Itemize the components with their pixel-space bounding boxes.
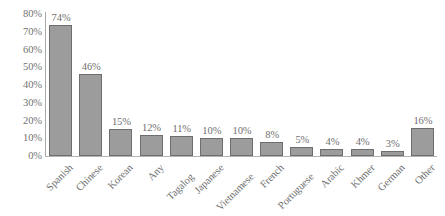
- bar-group: 3%: [378, 10, 408, 156]
- bar[interactable]: [109, 129, 132, 156]
- bar[interactable]: [49, 25, 72, 156]
- y-tick-label: 20%: [2, 116, 42, 127]
- y-tick-label: 40%: [2, 80, 42, 91]
- bar[interactable]: [351, 149, 374, 156]
- y-axis-tick-labels: 0%10%20%30%40%50%60%70%80%: [0, 0, 42, 216]
- bar[interactable]: [170, 136, 193, 156]
- bar[interactable]: [200, 138, 223, 156]
- bar[interactable]: [320, 149, 343, 156]
- y-tick-label: 80%: [2, 9, 42, 20]
- bar-group: 16%: [408, 10, 438, 156]
- bar[interactable]: [260, 142, 283, 156]
- bar-group: 4%: [317, 10, 347, 156]
- bar-group: 15%: [106, 10, 136, 156]
- y-tick-label: 0%: [2, 151, 42, 162]
- x-axis-line: [45, 156, 437, 157]
- x-axis-category-labels: SpanishChineseKoreanAnyTagalogJapaneseVi…: [46, 160, 438, 216]
- y-tick-label: 50%: [2, 62, 42, 73]
- bar[interactable]: [411, 128, 434, 156]
- y-tick-label: 60%: [2, 45, 42, 56]
- bar-group: 4%: [348, 10, 378, 156]
- plot-area: 74%46%15%12%11%10%10%8%5%4%4%3%16%: [46, 10, 438, 156]
- y-tick-label: 70%: [2, 27, 42, 38]
- bar[interactable]: [79, 74, 102, 156]
- y-tick-label: 10%: [2, 133, 42, 144]
- bar-group: 5%: [287, 10, 317, 156]
- bar[interactable]: [381, 151, 404, 156]
- bar-group: 74%: [46, 10, 76, 156]
- bar-group: 46%: [76, 10, 106, 156]
- bar-value-label: 16%: [402, 115, 444, 126]
- bar[interactable]: [140, 135, 163, 156]
- bar-chart: 0%10%20%30%40%50%60%70%80% 74%46%15%12%1…: [0, 0, 445, 216]
- y-tick-label: 30%: [2, 98, 42, 109]
- bar[interactable]: [290, 147, 313, 156]
- bar[interactable]: [230, 138, 253, 156]
